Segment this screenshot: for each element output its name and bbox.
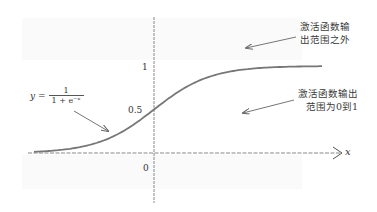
annotation-line: 出范围之外 — [300, 33, 350, 46]
annotation-arrow-inside — [243, 100, 294, 113]
formula-fraction: 1 1 + e⁻ˣ — [49, 86, 84, 105]
annotation-inside-range: 激活函数输出 范围为0到1 — [298, 87, 358, 113]
x-axis-label: x — [345, 146, 351, 157]
formula-numerator: 1 — [62, 86, 71, 95]
y-tick-0: 0 — [143, 163, 149, 173]
formula-denominator: 1 + e⁻ˣ — [49, 95, 84, 105]
annotation-line: 激活函数输出 — [298, 87, 358, 100]
formula-lhs: y = — [30, 91, 46, 101]
formula-arrow — [74, 111, 108, 131]
y-tick-1: 1 — [142, 62, 148, 72]
annotation-line: 范围为0到1 — [298, 100, 358, 113]
annotation-line: 激活函数输 — [300, 20, 350, 33]
annotation-outside-range: 激活函数输 出范围之外 — [300, 20, 350, 46]
y-tick-0-5: 0.5 — [128, 105, 142, 115]
sigmoid-curve — [34, 66, 322, 152]
sigmoid-formula: y = 1 1 + e⁻ˣ — [30, 86, 84, 105]
annotation-arrow-outside — [246, 37, 296, 48]
